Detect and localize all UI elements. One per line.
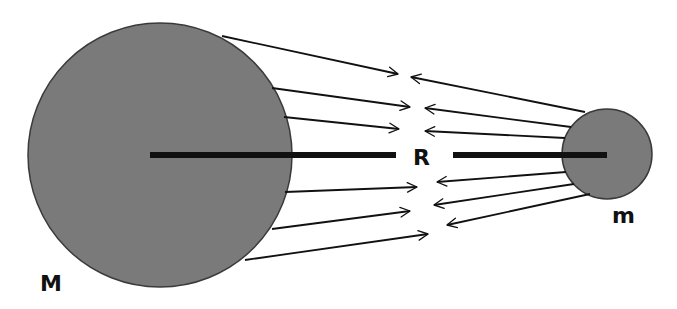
label-small-mass: m xyxy=(612,203,635,228)
gravitation-diagram: M R m xyxy=(0,0,677,309)
force-arrow xyxy=(425,108,571,127)
force-arrow xyxy=(437,172,566,182)
force-arrow xyxy=(284,117,399,129)
force-arrow xyxy=(245,234,428,260)
label-large-mass: M xyxy=(40,271,62,296)
force-arrow xyxy=(285,187,417,192)
force-arrow xyxy=(272,211,410,229)
force-arrow xyxy=(272,88,410,107)
diagram-canvas: M R m xyxy=(0,0,677,309)
label-distance: R xyxy=(413,145,430,170)
force-arrow xyxy=(447,194,590,225)
force-arrow xyxy=(411,77,585,112)
force-arrow xyxy=(425,131,565,138)
